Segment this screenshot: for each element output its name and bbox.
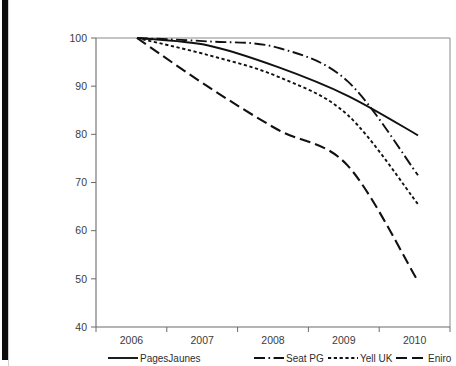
y-tick-label: 40 [75, 321, 87, 333]
series-line-yell-uk [137, 38, 418, 204]
y-axis: 405060708090100 [69, 32, 96, 333]
legend-label-yell-uk: Yell UK [360, 353, 393, 364]
y-tick-label: 50 [75, 273, 87, 285]
y-tick-label: 60 [75, 224, 87, 236]
x-tick-label: 2006 [120, 334, 144, 346]
series-line-eniro [137, 38, 418, 281]
y-tick-group: 405060708090100 [69, 32, 96, 333]
x-tick-label: 2009 [332, 334, 356, 346]
legend-label-eniro: Eniro [428, 353, 452, 364]
line-chart: 405060708090100 20062007200820092010 Pag… [40, 16, 456, 366]
legend-label-pagesjaunes: PagesJaunes [140, 353, 201, 364]
series-line-seat-pg [137, 38, 418, 175]
chart-canvas: 405060708090100 20062007200820092010 Pag… [40, 16, 456, 366]
x-tick-label: 2010 [403, 334, 427, 346]
y-tick-label: 70 [75, 176, 87, 188]
chart-legend: PagesJaunesSeat PGYell UKEniro [108, 353, 452, 364]
y-tick-label: 100 [69, 32, 87, 44]
y-tick-label: 80 [75, 128, 87, 140]
plot-frame [96, 38, 450, 327]
x-tick-group: 20062007200820092010 [96, 327, 450, 346]
x-tick-label: 2007 [191, 334, 215, 346]
legend-label-seat-pg: Seat PG [286, 353, 324, 364]
series-line-pagesjaunes [137, 38, 418, 135]
y-tick-label: 90 [75, 80, 87, 92]
x-axis: 20062007200820092010 [96, 327, 450, 346]
scan-artifact-line [8, 0, 9, 366]
x-tick-label: 2008 [261, 334, 285, 346]
series-group [137, 38, 418, 281]
